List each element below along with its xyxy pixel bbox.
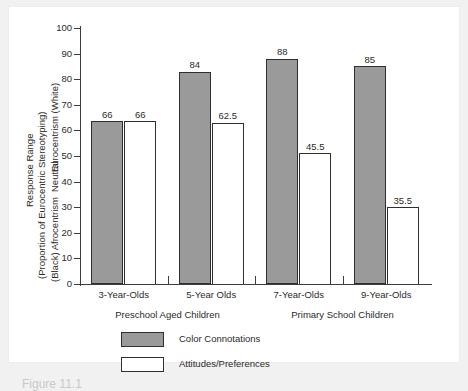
y-axis-tick-label: 0 xyxy=(67,279,72,289)
bar-hollow: 45.5 xyxy=(299,153,331,284)
y-axis-title-line1: Response Range xyxy=(25,134,35,207)
bar-value-label: 66 xyxy=(102,110,113,120)
y-axis-range-middle-label: Neutral xyxy=(50,161,60,192)
x-axis-group-label: Primary School Children xyxy=(291,310,393,320)
x-axis-separator xyxy=(168,276,169,284)
bar-hollow: 66 xyxy=(124,121,156,284)
y-axis-tick-label: 100 xyxy=(56,23,72,33)
y-axis-tick-mark xyxy=(74,54,80,55)
y-axis-tick-label: 80 xyxy=(61,74,72,84)
bar-hollow: 35.5 xyxy=(387,207,419,284)
legend-item: Color Connotations xyxy=(121,329,270,349)
y-axis-range-top-label: Eurocentrism (White) xyxy=(50,83,60,172)
bar-value-label: 88 xyxy=(277,47,288,57)
y-axis-tick-label: 90 xyxy=(61,49,72,59)
x-axis-line xyxy=(80,284,432,285)
bar-value-label: 35.5 xyxy=(394,196,413,206)
bar-value-label: 84 xyxy=(189,60,200,70)
bar-value-label: 45.5 xyxy=(306,142,325,152)
y-axis-tick-label: 10 xyxy=(61,254,72,264)
x-axis-separator xyxy=(343,276,344,284)
y-axis-tick-label: 20 xyxy=(61,228,72,238)
y-axis-tick-label: 70 xyxy=(61,100,72,110)
legend-label: Attitudes/Preferences xyxy=(179,359,270,369)
y-axis-tick-mark xyxy=(74,28,80,29)
y-axis-tick-label: 50 xyxy=(61,151,72,161)
bar-filled: 85 xyxy=(354,66,386,284)
x-axis-separator xyxy=(255,276,256,284)
bar-value-label: 66 xyxy=(135,110,146,120)
y-axis-tick-mark xyxy=(74,207,80,208)
y-axis-tick-mark xyxy=(74,130,80,131)
x-axis-category-label: 7-Year-Olds xyxy=(274,290,324,300)
plot-area: 010203040506070809010066668462.58845.585… xyxy=(80,28,430,284)
y-axis-title-line2: (Proportion of Eurocentric Stereotyping) xyxy=(37,112,47,279)
x-axis-category-label: 9-Year-Olds xyxy=(361,290,411,300)
bar-filled: 88 xyxy=(266,59,298,284)
x-axis-group-label: Preschool Aged Children xyxy=(115,310,220,320)
bar-filled: 84 xyxy=(179,72,211,284)
y-axis-tick-label: 60 xyxy=(61,126,72,136)
y-axis-range-bottom-label: (Black) Afrocentrism xyxy=(50,197,60,282)
y-axis-tick-mark xyxy=(74,105,80,106)
bar-filled: 66 xyxy=(91,121,123,284)
y-axis-tick-mark xyxy=(74,233,80,234)
y-axis-tick-label: 40 xyxy=(61,177,72,187)
legend-swatch-filled xyxy=(121,332,164,347)
y-axis-tick-mark xyxy=(74,258,80,259)
chart-legend: Color ConnotationsAttitudes/Preferences xyxy=(121,329,270,379)
figure-panel: Response Range (Proportion of Eurocentri… xyxy=(9,7,459,362)
bar-hollow: 62.5 xyxy=(212,123,244,284)
legend-label: Color Connotations xyxy=(179,334,260,344)
y-axis-tick-label: 30 xyxy=(61,202,72,212)
figure-caption: Figure 11.1 xyxy=(22,378,82,390)
x-axis-category-label: 5-Year Olds xyxy=(186,290,236,300)
y-axis-tick-mark xyxy=(74,156,80,157)
bar-value-label: 62.5 xyxy=(219,111,238,121)
bar-value-label: 85 xyxy=(364,55,375,65)
legend-swatch-hollow xyxy=(121,357,164,372)
legend-item: Attitudes/Preferences xyxy=(121,354,270,374)
x-axis-category-label: 3-Year-Olds xyxy=(99,290,149,300)
y-axis-tick-mark xyxy=(74,79,80,80)
y-axis-tick-mark xyxy=(74,182,80,183)
y-axis-tick-mark xyxy=(74,284,80,285)
